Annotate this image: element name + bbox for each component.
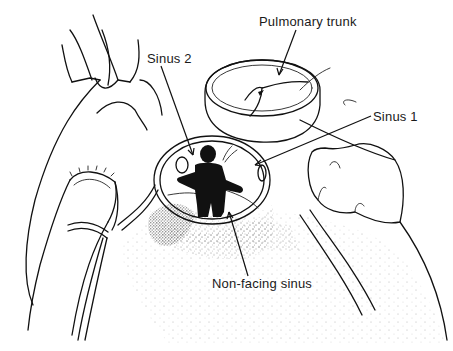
label-pulmonary-trunk: Pulmonary trunk [259, 15, 357, 28]
aortic-root-illustration [0, 0, 453, 351]
leader-sinus-2 [161, 66, 193, 155]
pulmonary-trunk [205, 60, 320, 142]
heart-tissue [120, 204, 445, 345]
human-figure [177, 145, 243, 217]
label-sinus-2: Sinus 2 [147, 52, 192, 65]
label-non-facing-sinus: Non-facing sinus [212, 277, 312, 290]
label-sinus-1: Sinus 1 [373, 110, 418, 123]
